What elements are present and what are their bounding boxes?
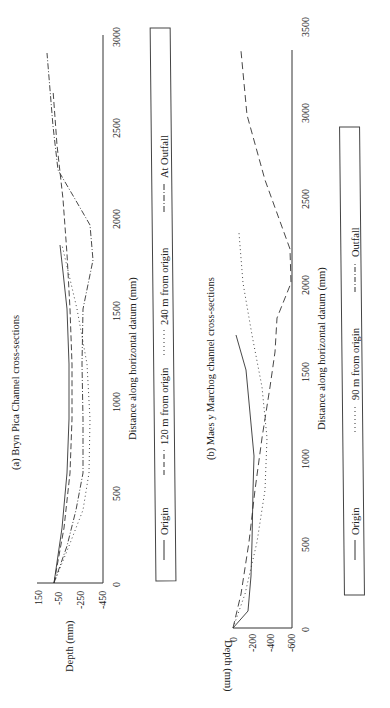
chart-b-xtick-2500: 2500 bbox=[300, 189, 311, 209]
chart-a-series-origin bbox=[54, 245, 69, 583]
chart-b-ytick-neg600: -600 bbox=[286, 634, 297, 652]
chart-a-ytick-neg50: -50 bbox=[53, 592, 64, 605]
legend-b-90m-label: 90 m from origin bbox=[350, 327, 361, 400]
chart-a-title: (a) Bryn Pica Channel cross-sections bbox=[10, 315, 22, 470]
chart-a-legend: Origin 120 m from origin 240 m from orig… bbox=[150, 28, 176, 581]
chart-a-x-ticks: 0 500 1000 1500 2000 2500 3000 bbox=[111, 27, 122, 587]
chart-a-xtick-500: 500 bbox=[111, 486, 122, 501]
chart-a-plot-area bbox=[47, 53, 93, 583]
chart-b-y-ticks: 0 -200 -400 -600 bbox=[228, 634, 297, 652]
legend-a-outfall-label: At Outfall bbox=[159, 135, 170, 178]
chart-a-x-axis-title: Distance along horizontal datum (mm) bbox=[127, 277, 139, 440]
legend-a-240m-label: 240 m from origin bbox=[159, 247, 170, 325]
chart-b-y-axis-title: Depth (mm) bbox=[222, 640, 234, 692]
chart-b-x-axis-title: Distance along horizontal datum (mm) bbox=[316, 267, 328, 430]
chart-b-xtick-0: 0 bbox=[300, 627, 311, 632]
chart-b-xtick-3500: 3500 bbox=[300, 17, 311, 37]
chart-a-series-120m bbox=[53, 90, 72, 583]
chart-b-ytick-neg400: -400 bbox=[265, 634, 276, 652]
chart-b-series-origin bbox=[233, 335, 254, 628]
chart-b-plot-area bbox=[233, 51, 291, 628]
chart-a-xtick-3000: 3000 bbox=[111, 27, 122, 47]
chart-b-ytick-neg200: -200 bbox=[247, 634, 258, 652]
chart-a-y-ticks: 150 -50 -250 -450 bbox=[33, 590, 108, 609]
chart-a-y-axis-title: Depth (mm) bbox=[64, 620, 76, 672]
legend-b-origin-label: Origin bbox=[350, 507, 361, 535]
chart-b-series-90m bbox=[233, 233, 267, 628]
chart-a-xtick-0: 0 bbox=[111, 582, 122, 587]
chart-b-xtick-3000: 3000 bbox=[300, 103, 311, 123]
legend-a-120m-label: 120 m from origin bbox=[159, 367, 170, 445]
chart-a-xtick-2500: 2500 bbox=[111, 118, 122, 138]
chart-a: (a) Bryn Pica Channel cross-sections 150… bbox=[10, 27, 176, 672]
chart-b-xtick-1500: 1500 bbox=[300, 362, 311, 382]
chart-b-title: (b) Maes y Marchog channel cross-section… bbox=[205, 277, 217, 460]
chart-a-ytick-neg450: -450 bbox=[97, 591, 108, 609]
chart-b: (b) Maes y Marchog channel cross-section… bbox=[205, 17, 364, 692]
chart-a-ytick-150: 150 bbox=[33, 590, 44, 605]
chart-b-xtick-500: 500 bbox=[300, 537, 311, 552]
legend-b-outfall-label: Outfall bbox=[350, 227, 361, 257]
chart-b-xtick-2000: 2000 bbox=[300, 275, 311, 295]
chart-a-ytick-neg250: -250 bbox=[75, 591, 86, 609]
chart-b-series-outfall bbox=[233, 51, 291, 628]
chart-a-xtick-1500: 1500 bbox=[111, 301, 122, 321]
chart-b-x-ticks: 0 500 1000 1500 2000 2500 3000 3500 bbox=[300, 17, 311, 632]
chart-a-xtick-1000: 1000 bbox=[111, 392, 122, 412]
chart-a-series-240m bbox=[54, 245, 90, 583]
figure: (a) Bryn Pica Channel cross-sections 150… bbox=[0, 0, 390, 708]
legend-a-origin-label: Origin bbox=[159, 507, 170, 535]
chart-b-legend: Origin 90 m from origin Outfall bbox=[340, 127, 365, 595]
chart-a-xtick-2000: 2000 bbox=[111, 209, 122, 229]
chart-b-xtick-1000: 1000 bbox=[300, 449, 311, 469]
